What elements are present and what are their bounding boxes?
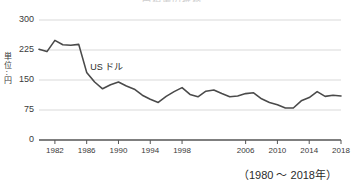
y-tick-label-75: 75 [8, 104, 34, 114]
y-tick-label-300: 300 [8, 14, 34, 24]
series-annotation-us-dollar: US ドル [90, 60, 123, 73]
x-tick-label-1998: 1998 [169, 146, 195, 155]
y-tick-label-0: 0 [8, 134, 34, 144]
y-tick-label-225: 225 [8, 44, 34, 54]
x-tick-label-2010: 2010 [264, 146, 290, 155]
x-tick-label-1986: 1986 [74, 146, 100, 155]
x-tick-label-2018: 2018 [328, 146, 354, 155]
x-tick-label-1994: 1994 [137, 146, 163, 155]
x-tick-label-2014: 2014 [296, 146, 322, 155]
x-tick-label-2006: 2006 [233, 146, 259, 155]
range-caption: （1980 ～ 2018年） [238, 166, 337, 182]
x-tick-label-1982: 1982 [42, 146, 68, 155]
x-tick-label-1990: 1990 [105, 146, 131, 155]
y-tick-label-150: 150 [8, 74, 34, 84]
series-line-us-dollar [39, 40, 341, 108]
